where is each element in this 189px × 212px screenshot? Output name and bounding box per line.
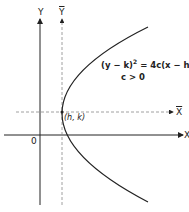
origin-label: 0 (31, 137, 37, 146)
equation-label: (y − k)2 = 4c(x − h) (101, 59, 189, 69)
x-axis-label: X (184, 131, 189, 140)
y-bar-axis-label: Y (59, 8, 65, 17)
parabola-diagram (0, 0, 189, 212)
y-axis-label: Y (38, 8, 44, 17)
vertex-label: (h, k) (64, 114, 85, 122)
equation-lhs: (y − k) (101, 60, 133, 70)
x-bar-axis-label: X (176, 108, 182, 117)
equation-rhs: = 4c(x − h) (137, 60, 189, 70)
condition-label: c > 0 (121, 73, 145, 82)
